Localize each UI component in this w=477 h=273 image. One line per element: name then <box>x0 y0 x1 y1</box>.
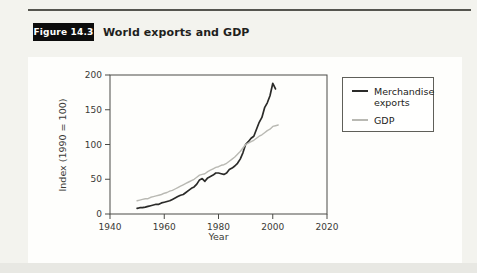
svg-text:0: 0 <box>96 209 102 219</box>
legend-item-merchandise-exports: Merchandise exports <box>352 86 429 109</box>
svg-text:150: 150 <box>85 105 102 115</box>
figure-label-badge: Figure 14.3 <box>33 23 94 41</box>
legend-line-sample-gdp <box>352 119 368 121</box>
legend-line-sample-merchandise-exports <box>352 90 368 92</box>
figure-title: World exports and GDP <box>103 26 250 39</box>
top-rule <box>28 9 471 11</box>
svg-text:100: 100 <box>85 140 102 150</box>
x-axis-label: Year <box>110 231 327 242</box>
chart-panel: 05010015020019401960198020002020 Index (… <box>28 57 462 263</box>
legend-label-merchandise-exports: Merchandise exports <box>374 86 434 109</box>
svg-text:200: 200 <box>85 70 102 80</box>
figure-canvas: Figure 14.3 World exports and GDP 050100… <box>0 0 477 273</box>
legend-label-gdp: GDP <box>374 115 394 126</box>
page-bottom-strip <box>0 263 477 273</box>
legend-item-gdp: GDP <box>352 115 429 126</box>
legend: Merchandise exports GDP <box>342 77 434 132</box>
svg-text:50: 50 <box>91 174 103 184</box>
figure-label: Figure 14.3 <box>33 27 93 37</box>
